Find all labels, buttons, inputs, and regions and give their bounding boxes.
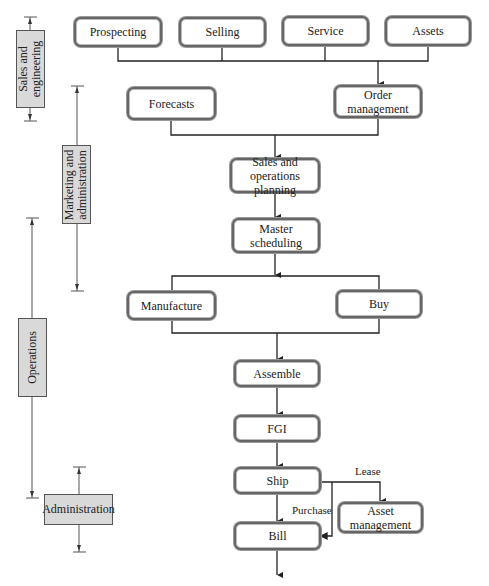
box-ship: Ship bbox=[234, 467, 321, 494]
box-label: Sales and bbox=[232, 155, 318, 169]
box-master-scheduling: Masterscheduling bbox=[232, 218, 320, 253]
box-assets: Assets bbox=[385, 16, 471, 46]
box-label: Ship bbox=[266, 474, 288, 488]
box-prospecting: Prospecting bbox=[74, 17, 162, 47]
box-label: management bbox=[350, 518, 411, 532]
band-label: engineering bbox=[31, 41, 44, 98]
box-fgi: FGI bbox=[234, 415, 320, 442]
box-label: Prospecting bbox=[90, 25, 147, 39]
box-label: Service bbox=[308, 24, 344, 38]
box-forecasts: Forecasts bbox=[127, 87, 216, 120]
box-asset-management: Assetmanagement bbox=[338, 502, 423, 533]
box-selling: Selling bbox=[179, 17, 266, 47]
band-marketing-administration: Marketing andadministration bbox=[62, 145, 91, 224]
edge-label-purchase: Purchase bbox=[292, 504, 332, 516]
box-sales-operations-planning: Sales andoperations planning bbox=[230, 158, 320, 193]
band-sales-engineering: Sales andengineering bbox=[16, 30, 45, 108]
box-label: Asset bbox=[350, 504, 411, 518]
band-operations: Operations bbox=[18, 318, 47, 397]
box-manufacture: Manufacture bbox=[127, 291, 216, 320]
box-label: Master bbox=[250, 222, 302, 236]
box-buy: Buy bbox=[336, 290, 422, 318]
box-label: Assets bbox=[412, 24, 443, 38]
band-label: Administration bbox=[42, 503, 115, 516]
box-label: Assemble bbox=[253, 367, 300, 381]
box-label: FGI bbox=[267, 422, 286, 436]
box-order-management: Ordermanagement bbox=[334, 85, 422, 118]
box-service: Service bbox=[282, 16, 369, 46]
box-assemble: Assemble bbox=[234, 360, 320, 387]
box-label: scheduling bbox=[250, 236, 302, 250]
edge-label-lease: Lease bbox=[355, 465, 381, 477]
box-label: Buy bbox=[369, 297, 389, 311]
box-label: operations planning bbox=[232, 169, 318, 197]
box-bill: Bill bbox=[234, 522, 321, 550]
box-label: Selling bbox=[205, 25, 239, 39]
box-label: Bill bbox=[268, 529, 286, 543]
band-administration: Administration bbox=[44, 494, 113, 525]
box-label: Manufacture bbox=[141, 299, 202, 313]
box-label: management bbox=[347, 102, 408, 116]
box-label: Forecasts bbox=[149, 97, 194, 111]
box-label: Order bbox=[347, 88, 408, 102]
band-label: Operations bbox=[26, 331, 39, 384]
band-label: administration bbox=[77, 149, 90, 219]
